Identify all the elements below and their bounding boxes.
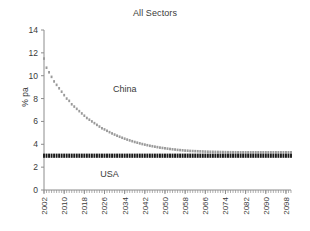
data-point	[197, 154, 199, 158]
data-point	[93, 154, 95, 158]
data-point	[46, 154, 48, 158]
data-point	[48, 71, 50, 74]
x-tick-label: 2066	[201, 196, 210, 214]
data-point	[61, 154, 63, 158]
data-point	[270, 151, 272, 154]
data-point	[101, 154, 103, 158]
data-point	[56, 84, 58, 87]
data-point	[53, 80, 55, 83]
x-tick-label: 2098	[282, 196, 291, 214]
data-point	[277, 154, 279, 158]
data-point	[114, 154, 116, 158]
data-point	[76, 154, 78, 158]
data-point	[199, 154, 201, 158]
data-point	[240, 151, 242, 154]
data-point	[255, 154, 257, 158]
data-point	[290, 151, 292, 154]
y-tick-label: 12	[29, 48, 39, 58]
data-point	[265, 151, 267, 154]
data-point	[174, 154, 176, 158]
data-point	[83, 114, 85, 117]
data-point	[88, 118, 90, 121]
data-point	[204, 154, 206, 158]
data-point	[187, 149, 189, 152]
data-point	[141, 143, 143, 146]
series-usa	[43, 154, 292, 158]
data-point	[162, 147, 164, 150]
data-point	[212, 154, 214, 158]
data-point	[169, 148, 171, 151]
data-point	[53, 154, 55, 158]
data-point	[129, 154, 131, 158]
plot-area: 02468101214 2002201020182026203420422050…	[0, 0, 310, 231]
data-point	[240, 154, 242, 158]
data-point	[270, 154, 272, 158]
data-point	[154, 154, 156, 158]
data-point	[252, 151, 254, 154]
data-point	[272, 154, 274, 158]
data-point	[111, 132, 113, 135]
data-point	[131, 140, 133, 143]
data-point	[250, 151, 252, 154]
data-point	[71, 103, 73, 106]
data-point	[96, 154, 98, 158]
data-point	[280, 154, 282, 158]
data-point	[262, 154, 264, 158]
data-point	[144, 143, 146, 146]
chart-figure: All Sectors % pa 02468101214 20022010201…	[0, 0, 310, 231]
data-point	[164, 147, 166, 150]
x-tick-label: 2058	[181, 196, 190, 214]
data-series-layer	[43, 57, 292, 158]
data-point	[182, 149, 184, 152]
data-point	[66, 97, 68, 100]
data-point	[288, 154, 290, 158]
data-point	[184, 154, 186, 158]
data-point	[116, 154, 118, 158]
data-point	[227, 154, 229, 158]
data-point	[242, 151, 244, 154]
data-point	[71, 154, 73, 158]
data-point	[164, 154, 166, 158]
data-point	[209, 150, 211, 153]
data-point	[146, 144, 148, 147]
data-point	[98, 154, 100, 158]
data-point	[91, 154, 93, 158]
y-tick-label: 0	[33, 185, 38, 195]
data-point	[58, 87, 60, 90]
data-point	[177, 154, 179, 158]
data-point	[126, 154, 128, 158]
data-point	[285, 154, 287, 158]
data-point	[139, 154, 141, 158]
data-point	[245, 151, 247, 154]
data-point	[267, 151, 269, 154]
data-point	[149, 154, 151, 158]
data-point	[76, 108, 78, 111]
data-point	[98, 125, 100, 128]
y-tick-label: 2	[33, 162, 38, 172]
data-point	[172, 154, 174, 158]
data-point	[78, 154, 80, 158]
x-tick-label: 2090	[262, 196, 271, 214]
data-point	[104, 154, 106, 158]
data-point	[282, 154, 284, 158]
series-label-usa: USA	[100, 169, 119, 179]
data-point	[116, 134, 118, 137]
data-point	[114, 133, 116, 136]
data-point	[217, 154, 219, 158]
data-point	[202, 154, 204, 158]
data-point	[73, 105, 75, 108]
data-point	[61, 90, 63, 93]
data-point	[167, 154, 169, 158]
data-point	[78, 110, 80, 113]
data-point	[81, 154, 83, 158]
x-tick-label: 2026	[100, 196, 109, 214]
data-point	[230, 151, 232, 154]
data-point	[207, 154, 209, 158]
data-point	[207, 150, 209, 153]
data-point	[66, 154, 68, 158]
data-point	[156, 154, 158, 158]
data-point	[237, 154, 239, 158]
data-point	[121, 154, 123, 158]
data-point	[209, 154, 211, 158]
data-point	[51, 154, 53, 158]
